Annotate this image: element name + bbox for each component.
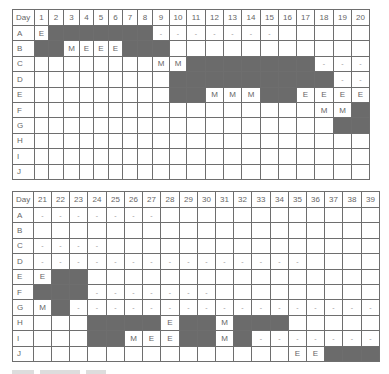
- empty-cell: [297, 26, 315, 41]
- empty-cell: [297, 164, 315, 179]
- empty-cell: [80, 72, 94, 87]
- shaded-cell: [107, 331, 125, 346]
- empty-cell: [94, 118, 109, 133]
- marked-cell: -: [180, 284, 198, 299]
- empty-cell: [49, 164, 64, 179]
- day-number: 10: [170, 10, 187, 26]
- shaded-cell: [125, 315, 143, 330]
- empty-cell: [109, 118, 123, 133]
- shaded-cell: [80, 26, 94, 41]
- day-number: 14: [242, 10, 261, 26]
- marked-cell: -: [107, 284, 125, 299]
- empty-cell: [161, 223, 180, 238]
- empty-cell: [138, 164, 153, 179]
- empty-cell: [125, 238, 143, 253]
- empty-cell: [279, 149, 297, 164]
- marked-cell: -: [107, 300, 125, 315]
- empty-cell: [252, 269, 271, 284]
- table-row: FMM: [13, 102, 370, 117]
- shaded-cell: [138, 26, 153, 41]
- marked-cell: M: [125, 331, 143, 346]
- shaded-cell: [234, 315, 252, 330]
- empty-cell: [80, 87, 94, 102]
- table-row: HEM: [13, 315, 380, 330]
- marked-cell: -: [34, 208, 52, 223]
- shaded-cell: [170, 87, 187, 102]
- day-number: 32: [234, 192, 252, 208]
- shaded-cell: [206, 56, 224, 71]
- empty-cell: [107, 269, 125, 284]
- empty-cell: [315, 164, 334, 179]
- empty-cell: [271, 284, 289, 299]
- empty-cell: [170, 164, 187, 179]
- empty-cell: [362, 315, 380, 330]
- empty-cell: [49, 149, 64, 164]
- marked-cell: E: [80, 41, 94, 56]
- empty-cell: [180, 208, 198, 223]
- empty-cell: [170, 102, 187, 117]
- empty-cell: [271, 208, 289, 223]
- day-number: 19: [334, 10, 352, 26]
- empty-cell: [94, 149, 109, 164]
- empty-cell: [242, 133, 261, 148]
- table-row: EMMMEEEE: [13, 87, 370, 102]
- row-label: J: [13, 346, 34, 361]
- day-number: 20: [352, 10, 370, 26]
- shaded-cell: [297, 72, 315, 87]
- empty-cell: [125, 269, 143, 284]
- shaded-cell: [123, 26, 138, 41]
- shaded-cell: [198, 315, 216, 330]
- table-row: BMEEE: [13, 41, 370, 56]
- empty-cell: [234, 238, 252, 253]
- empty-cell: [362, 254, 380, 269]
- day-number: 34: [271, 192, 289, 208]
- empty-cell: [216, 346, 234, 361]
- day-number: 18: [315, 10, 334, 26]
- empty-cell: [343, 208, 362, 223]
- empty-cell: [49, 72, 64, 87]
- marked-cell: -: [315, 56, 334, 71]
- table-row: IMEEM-------: [13, 331, 380, 346]
- row-label: J: [13, 164, 35, 179]
- marked-cell: -: [271, 300, 289, 315]
- marked-cell: E: [307, 346, 325, 361]
- row-label: H: [13, 315, 34, 330]
- shaded-cell: [70, 269, 88, 284]
- marked-cell: -: [252, 300, 271, 315]
- marked-cell: E: [34, 269, 52, 284]
- marked-cell: E: [35, 26, 49, 41]
- empty-cell: [64, 56, 80, 71]
- empty-cell: [343, 315, 362, 330]
- empty-cell: [143, 269, 161, 284]
- empty-cell: [187, 149, 206, 164]
- empty-cell: [143, 223, 161, 238]
- empty-cell: [307, 254, 325, 269]
- empty-cell: [138, 118, 153, 133]
- empty-cell: [161, 208, 180, 223]
- day-number: 1: [35, 10, 49, 26]
- shaded-cell: [34, 284, 52, 299]
- marked-cell: E: [315, 87, 334, 102]
- table-row: GM-----------------: [13, 300, 380, 315]
- empty-cell: [180, 269, 198, 284]
- empty-cell: [80, 133, 94, 148]
- empty-cell: [242, 164, 261, 179]
- empty-cell: [187, 118, 206, 133]
- empty-cell: [216, 238, 234, 253]
- shaded-cell: [242, 72, 261, 87]
- marked-cell: -: [234, 254, 252, 269]
- empty-cell: [234, 208, 252, 223]
- empty-cell: [206, 133, 224, 148]
- empty-cell: [206, 41, 224, 56]
- marked-cell: -: [52, 208, 70, 223]
- day-number: 4: [80, 10, 94, 26]
- empty-cell: [35, 133, 49, 148]
- shaded-cell: [234, 331, 252, 346]
- empty-cell: [109, 72, 123, 87]
- marked-cell: -: [153, 26, 170, 41]
- day-header: Day: [13, 10, 35, 26]
- row-label: F: [13, 284, 34, 299]
- empty-cell: [216, 269, 234, 284]
- empty-cell: [279, 118, 297, 133]
- marked-cell: -: [271, 254, 289, 269]
